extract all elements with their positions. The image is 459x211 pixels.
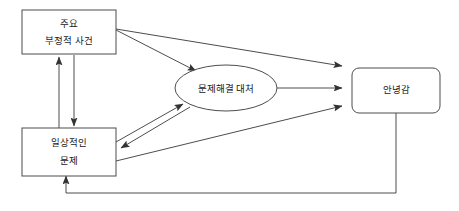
node-daily-problems-label-line1: 일상적인 [51, 137, 87, 148]
diagram-canvas: 주요 부정적 사건 일상적인 문제 문제해결 대처 안녕감 [0, 0, 459, 211]
diagram-container: 주요 부정적 사건 일상적인 문제 문제해결 대처 안녕감 [0, 0, 459, 211]
node-problem-solving-coping-label: 문제해결 대처 [198, 83, 255, 94]
edge-daily-problems-to-coping [116, 104, 183, 142]
edge-coping-to-daily-problems [121, 107, 190, 148]
node-major-negative-events[interactable]: 주요 부정적 사건 [22, 10, 116, 54]
node-wellbeing[interactable]: 안녕감 [352, 68, 440, 113]
edge-daily-problems-to-wellbeing [116, 106, 342, 161]
node-problem-solving-coping[interactable]: 문제해결 대처 [175, 65, 277, 111]
node-daily-problems-label-line2: 문제 [60, 155, 78, 166]
node-daily-problems[interactable]: 일상적인 문제 [22, 128, 116, 176]
node-wellbeing-label: 안녕감 [383, 84, 410, 95]
node-major-negative-events-label-line1: 주요 [60, 18, 78, 29]
node-major-negative-events-label-line2: 부정적 사건 [45, 35, 93, 46]
edge-major-events-to-coping [116, 30, 196, 71]
node-daily-problems-shape [22, 128, 116, 176]
